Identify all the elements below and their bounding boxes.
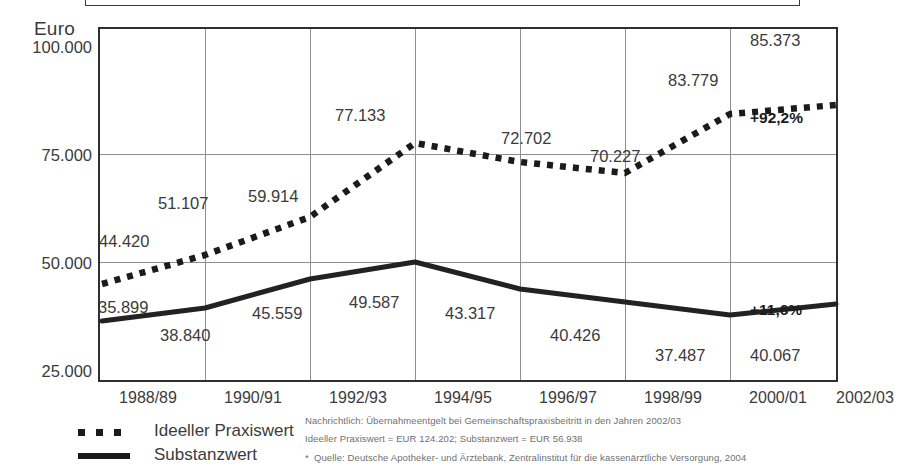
value-label-substanz-1988: 35.899 — [98, 298, 148, 317]
growth-label-ideeller-praxiswert: +92,2% — [750, 109, 803, 127]
series-ideeller-praxiswert-line — [102, 105, 836, 284]
growth-label-substanzwert: +11,6% — [750, 301, 802, 319]
series-lines — [100, 29, 840, 384]
value-label-ideell-1992: 59.914 — [248, 187, 298, 206]
value-label-substanz-1998: 40.426 — [550, 326, 600, 345]
value-label-ideell-2002: 85.373 — [750, 31, 800, 50]
footnote-werte: Ideeller Praxiswert = EUR 124.202; Subst… — [305, 430, 860, 448]
value-label-substanz-1990: 38.840 — [160, 326, 210, 345]
value-label-substanz-2002: 40.067 — [750, 346, 800, 365]
value-label-ideell-1994: 77.133 — [335, 106, 385, 125]
y-tick-25000: 25.000 — [6, 362, 92, 381]
value-label-substanz-1994: 49.587 — [349, 293, 399, 312]
value-label-ideell-1988: 44.420 — [99, 232, 149, 251]
value-label-substanz-1996: 43.317 — [445, 304, 495, 323]
title-box-cropped — [85, 0, 800, 6]
footnote-nachrichtlich: Nachrichtlich: Übernahmeentgelt bei Geme… — [305, 412, 860, 430]
legend-item-ideeller-praxiswert: Ideeller Praxiswert — [76, 419, 294, 443]
y-tick-75000: 75.000 — [6, 146, 92, 165]
legend-item-substanzwert: Substanzwert — [76, 443, 294, 467]
footnote-quelle: *Quelle: Deutsche Apotheker- und Ärzteba… — [305, 449, 860, 467]
value-label-ideell-2000: 83.779 — [668, 71, 718, 90]
value-label-ideell-1996: 72.702 — [501, 129, 551, 148]
y-tick-50000: 50.000 — [6, 254, 92, 273]
footnote-quelle-text: Quelle: Deutsche Apotheker- und Ärzteban… — [314, 452, 746, 463]
dotted-line-swatch-icon — [76, 423, 136, 439]
solid-line-swatch-icon — [76, 447, 136, 463]
value-label-substanz-1992: 45.559 — [252, 304, 302, 323]
value-label-ideell-1998: 70.227 — [590, 147, 640, 166]
x-tick-2002-03: 2002/03 — [770, 389, 898, 407]
plot-area: 44.420 51.107 59.914 77.133 72.702 70.22… — [98, 27, 838, 382]
legend-label-ideeller-praxiswert: Ideeller Praxiswert — [154, 421, 294, 441]
footnote-star-marker: * — [305, 449, 314, 467]
value-label-ideell-1990: 51.107 — [158, 194, 208, 213]
footnotes: Nachrichtlich: Übernahmeentgelt bei Geme… — [305, 412, 860, 467]
value-label-substanz-2000: 37.487 — [655, 346, 705, 365]
y-tick-100000: 100.000 — [6, 38, 92, 57]
legend-label-substanzwert: Substanzwert — [154, 445, 257, 465]
chart-legend: Ideeller Praxiswert Substanzwert — [76, 419, 294, 467]
